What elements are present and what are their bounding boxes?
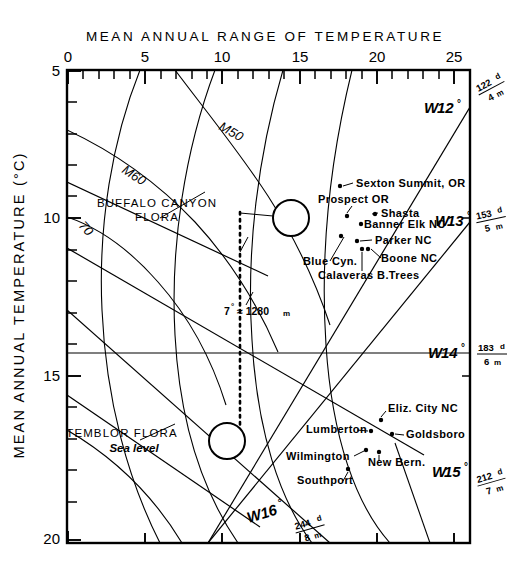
w-label-12-degree: ° [457,98,461,109]
station-label-southport: Southport [297,474,353,486]
y-tick-label: 5 [52,62,60,79]
w-14-days-unit: d [500,342,505,351]
station-label-boone: Boone NC [381,252,437,264]
point-blue-cyn [339,234,343,238]
station-label-new-bern: New Bern. [368,456,425,468]
point-prospect [345,214,349,218]
w-14-elev-unit: m [494,358,501,367]
buffalo-canyon-flora-label-line1: BUFFALO CANYON [97,197,217,209]
w-label-14-value: 14 [441,344,458,361]
y-axis-title: MEAN ANNUAL TEMPERATURE (°C) [11,151,27,458]
w-14-elev: 6 [484,356,489,367]
point-new-bern [377,450,381,454]
point-calaveras [360,247,364,251]
station-label-sexton-summit: Sexton Summit, OR [356,177,465,189]
w-label-13-value: 13 [447,212,464,229]
station-label-prospect: Prospect OR [318,193,389,205]
buffalo-note-elevation: ≈ 1280 [237,305,269,317]
point-wilmington [364,448,368,452]
x-tick-label: 25 [446,48,463,65]
point-banner-elk [359,222,363,226]
station-label-wilmington: Wilmington [286,450,350,462]
station-label-eliz-city: Eliz. City NC [388,402,458,414]
point-boone [366,247,370,251]
point-goldsboro [390,432,394,436]
station-label-banner-elk: Banner Elk NC [364,218,446,230]
point-lumberton [369,429,373,433]
station-label-calaveras: Calaveras B.Trees [318,269,420,281]
temblor-flora-label: TEMBLOR FLORA [66,427,177,439]
x-tick-label: 20 [369,48,386,65]
point-eliz-city [379,418,383,422]
buffalo-note-value: 7 [224,305,230,317]
buffalo-canyon-flora-label-line2: FLORA [135,211,179,223]
station-label-goldsboro: Goldsboro [406,428,465,440]
w-14-days: 183 [478,342,494,353]
x-tick-label: 10 [214,48,231,65]
w-label-15-degree: ° [464,461,468,472]
temblor-flora-marker [209,423,245,459]
canvas-background [0,0,531,569]
buffalo-canyon-marker [273,200,309,236]
station-label-blue-cyn: Blue Cyn. [303,255,357,267]
y-tick-label: 10 [43,209,60,226]
w-label-14-degree: ° [461,342,465,353]
chart-title: MEAN ANNUAL RANGE OF TEMPERATURE [86,29,444,44]
y-tick-label: 20 [43,530,60,547]
buffalo-note-degree: ° [231,302,234,311]
w-label-13-degree: ° [467,210,471,221]
buffalo-note-unit: m [283,309,290,318]
chart-figure: MEAN ANNUAL RANGE OF TEMPERATURE MEAN AN… [0,0,531,569]
temblor-flora-sealevel-label: Sea level [109,442,159,454]
station-label-parker: Parker NC [375,234,432,246]
station-label-lumberton: Lumberton [306,423,367,435]
w-label-15-value: 15 [444,463,461,480]
point-parker [355,239,359,243]
x-tick-label: 0 [64,48,72,65]
w-label-12-value: 12 [437,99,454,116]
y-tick-label: 15 [43,367,60,384]
point-southport [346,467,350,471]
chart-svg: MEAN ANNUAL RANGE OF TEMPERATURE MEAN AN… [0,0,531,569]
point-sexton-summit [338,184,342,188]
x-tick-label: 15 [292,48,309,65]
x-tick-label: 5 [141,48,149,65]
